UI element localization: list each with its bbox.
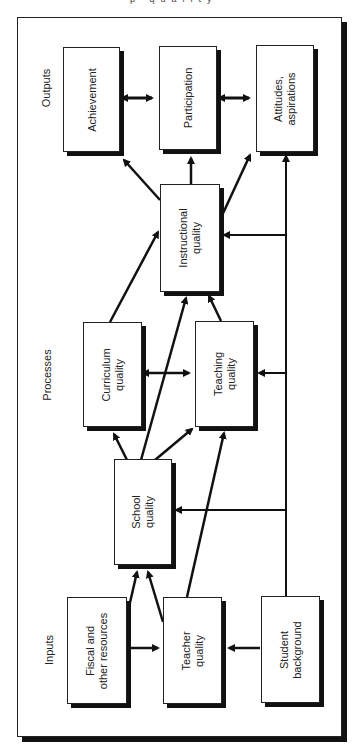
node-teacher-label: Teacher quality <box>180 631 206 670</box>
school-line2: quality <box>143 495 156 529</box>
node-curriculum-label: Curriculum quality <box>100 348 126 401</box>
teacher-line1: Teacher <box>180 631 193 670</box>
node-participation-label: Participation <box>182 68 195 129</box>
node-fiscal-resources: Fiscal and other resources <box>67 597 127 704</box>
section-label-outputs: Outputs <box>40 69 52 108</box>
curriculum-line2: quality <box>113 348 126 401</box>
node-achievement: Achievement <box>63 47 120 152</box>
section-label-processes: Processes <box>41 349 53 400</box>
node-student-label: Student background <box>278 621 304 679</box>
node-teaching-label: Teaching quality <box>212 352 238 396</box>
node-teaching-quality: Teaching quality <box>195 321 254 427</box>
teaching-line2: quality <box>225 352 238 396</box>
node-school-label: School quality <box>130 495 156 529</box>
node-achievement-label: Achievement <box>85 68 98 132</box>
node-attitudes-label: Attitudes, aspirations <box>272 72 298 125</box>
education-model-diagram: p quality Outputs Processes Inputs <box>0 0 359 746</box>
node-attitudes-aspirations: Attitudes, aspirations <box>256 45 314 152</box>
node-teacher-quality: Teacher quality <box>163 597 222 704</box>
teacher-line2: quality <box>193 631 206 670</box>
teaching-line1: Teaching <box>212 352 225 396</box>
attitudes-line2: aspirations <box>285 72 298 125</box>
instructional-line1: Instructional <box>177 208 190 267</box>
instructional-line2: quality <box>190 208 203 267</box>
student-line2: background <box>291 621 304 679</box>
attitudes-line1: Attitudes, <box>272 72 285 125</box>
node-school-quality: School quality <box>114 459 172 565</box>
node-participation: Participation <box>159 46 217 150</box>
node-student-background: Student background <box>261 596 320 703</box>
cropped-caption: p quality <box>130 0 218 4</box>
node-fiscal-label: Fiscal and other resources <box>84 612 110 688</box>
curriculum-line1: Curriculum <box>100 348 113 401</box>
fiscal-line2: other resources <box>97 612 110 688</box>
node-instructional-label: Instructional quality <box>177 208 203 267</box>
section-label-inputs: Inputs <box>43 635 55 665</box>
school-line1: School <box>130 495 143 529</box>
fiscal-line1: Fiscal and <box>84 612 97 688</box>
node-instructional-quality: Instructional quality <box>160 184 220 292</box>
student-line1: Student <box>278 621 291 679</box>
node-curriculum-quality: Curriculum quality <box>83 322 142 427</box>
